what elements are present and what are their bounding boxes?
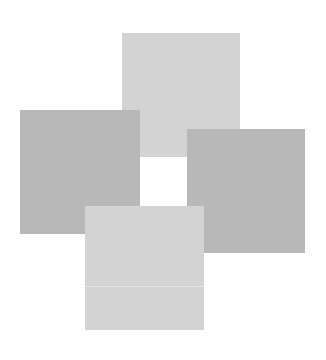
square-bottom — [85, 206, 204, 330]
square-right — [187, 129, 305, 253]
center-white-square — [141, 157, 187, 206]
bottom-square-divider-line — [85, 286, 204, 287]
pinwheel-diagram — [0, 0, 326, 360]
